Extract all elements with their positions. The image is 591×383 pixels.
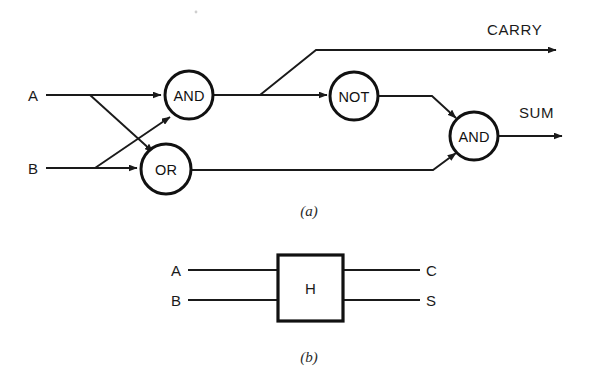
- gate-not-label: NOT: [338, 89, 369, 105]
- panel-a: AND OR NOT AND A B CARRY SUM (a): [28, 11, 562, 220]
- block-output-label-c: C: [426, 262, 437, 279]
- gate-and-2-label: AND: [458, 129, 489, 145]
- caption-panel-a: (a): [300, 203, 318, 220]
- figure-container: AND OR NOT AND A B CARRY SUM (a): [0, 0, 591, 383]
- block-half-adder-label: H: [305, 280, 316, 297]
- output-label-carry: CARRY: [487, 21, 542, 38]
- wire-a-branch-to-or: [90, 95, 153, 152]
- gate-and-1-label: AND: [173, 88, 204, 104]
- block-output-label-s: S: [426, 292, 436, 309]
- block-input-label-b: B: [171, 292, 181, 309]
- caption-panel-b: (b): [300, 349, 318, 366]
- panel-b: H A B C S (b): [171, 255, 437, 366]
- print-speck: [195, 11, 198, 14]
- wire-or-to-and2: [191, 153, 456, 170]
- block-input-label-a: A: [171, 262, 181, 279]
- input-label-b: B: [28, 160, 38, 177]
- output-label-sum: SUM: [519, 104, 554, 121]
- half-adder-figure: AND OR NOT AND A B CARRY SUM (a): [0, 0, 591, 383]
- input-label-a: A: [28, 87, 38, 104]
- gate-or-label: OR: [155, 162, 177, 178]
- wire-carry-output: [260, 50, 556, 95]
- wire-not-to-and2: [378, 96, 456, 118]
